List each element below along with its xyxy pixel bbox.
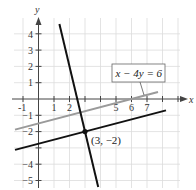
y-axis [36,17,42,188]
y-tick-2: 2 [28,61,33,72]
y-axis-label: y [34,4,40,15]
intersection-point [82,129,87,134]
y-tick-1: 1 [28,77,33,88]
graph: y x -1 1 2 5 6 7 4 3 2 1 −1 −2 −4 −5 (3,… [0,0,196,190]
y-tick-m4: −4 [22,159,33,170]
equation-callout: x − 4y = 6 [112,64,165,95]
y-tick-m5: −5 [22,175,33,186]
x-axis-arrow-icon [180,96,188,102]
x-tick-2: 2 [67,102,72,113]
equation-label: x − 4y = 6 [115,67,163,79]
line-4x-y-10 [59,24,98,187]
x-axis-label: x [188,94,194,105]
x-tick-6: 6 [129,102,134,113]
point-label: (3, −2) [91,134,121,147]
x-tick-1: 1 [52,102,57,113]
line-x-4y-6 [15,92,158,130]
y-tick-4: 4 [28,29,33,40]
y-tick-3: 3 [28,45,33,56]
y-axis-arrow-icon [36,17,42,25]
x-tick-7: 7 [145,102,150,113]
y-tick-m1: −1 [22,110,33,121]
